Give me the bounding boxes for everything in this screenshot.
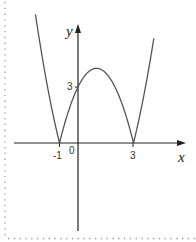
x-axis-label: x bbox=[178, 150, 185, 165]
y-axis-arrow-icon bbox=[75, 24, 81, 33]
x-tick-label-neg1: -1 bbox=[53, 151, 62, 161]
x-tick-label-3: 3 bbox=[130, 151, 136, 161]
function-curve bbox=[35, 14, 153, 143]
origin-label: 0 bbox=[69, 146, 75, 156]
function-graph bbox=[0, 0, 196, 242]
x-axis-arrow-icon bbox=[177, 140, 186, 146]
y-tick-label-3: 3 bbox=[67, 82, 73, 92]
y-axis-label: y bbox=[66, 24, 73, 39]
